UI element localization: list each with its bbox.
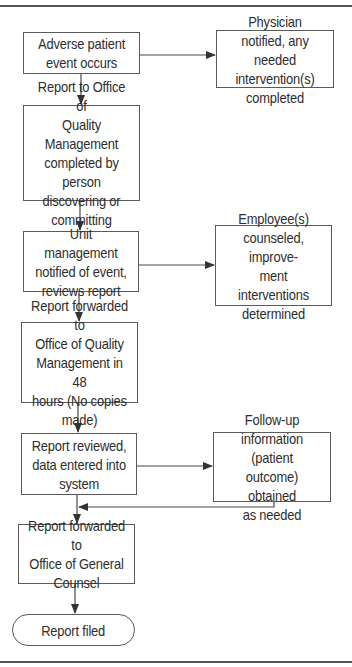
bottom-rule bbox=[0, 661, 352, 663]
terminal-report-filed: Report filed bbox=[12, 614, 135, 646]
step-label: Report forwarded to Office of Quality Ma… bbox=[30, 296, 129, 429]
side-follow-up-info: Follow-up information (patient outcome) … bbox=[213, 432, 331, 502]
step-label: Report reviewed, data entered into syste… bbox=[32, 436, 127, 493]
side-physician-notified: Physician notified, any needed intervent… bbox=[216, 30, 334, 88]
step-report-forwarded-counsel: Report forwarded to Office of General Co… bbox=[18, 524, 135, 584]
side-label: Physician notified, any needed intervent… bbox=[225, 12, 325, 107]
step-unit-management: Unit management notified of event, revie… bbox=[23, 231, 139, 292]
step-label: Adverse patient event occurs bbox=[38, 34, 125, 72]
side-employee-counseled: Employee(s) counseled, improve- ment int… bbox=[215, 225, 332, 306]
side-label: Employee(s) counseled, improve- ment int… bbox=[224, 209, 323, 323]
step-report-forwarded-oqm: Report forwarded to Office of Quality Ma… bbox=[21, 322, 138, 403]
step-adverse-event: Adverse patient event occurs bbox=[23, 32, 140, 74]
terminal-label: Report filed bbox=[42, 621, 106, 640]
step-label: Report forwarded to Office of General Co… bbox=[27, 516, 126, 592]
side-label: Follow-up information (patient outcome) … bbox=[222, 410, 322, 524]
top-rule bbox=[0, 5, 352, 7]
step-label: Unit management notified of event, revie… bbox=[32, 224, 130, 300]
step-report-to-oqm: Report to Office of Quality Management c… bbox=[23, 105, 140, 201]
step-report-reviewed: Report reviewed, data entered into syste… bbox=[21, 433, 137, 495]
step-label: Report to Office of Quality Management c… bbox=[32, 77, 131, 229]
